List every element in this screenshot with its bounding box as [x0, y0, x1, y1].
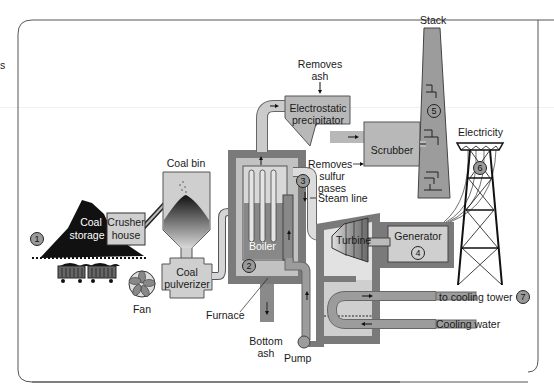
coal-cars [58, 263, 120, 283]
furnace-label: Furnace [206, 309, 245, 321]
step-5-badge: 5 [427, 104, 441, 118]
boiler-label: Boiler [249, 240, 276, 252]
coal-pulverizer-label-line1: Coal [162, 266, 212, 278]
removes-sulfur-label-line3: gases [310, 182, 354, 194]
fan-label: Fan [128, 303, 156, 315]
cooling-tower-label: to cooling tower [439, 291, 513, 303]
precipitator-label-line1: Electrostatic [286, 102, 350, 114]
coal-bin-label: Coal bin [158, 157, 214, 169]
cooling-water-label: Cooling water [436, 318, 500, 330]
removes-sulfur-label-line1: Removes [308, 158, 352, 170]
removes-sulfur-label-line2: sulfur [312, 170, 352, 182]
coal-storage-label-line1: Coal [74, 216, 108, 228]
power-plant-diagram: s [0, 0, 554, 387]
bottom-ash-label-line2: ash [246, 347, 286, 359]
coal-bin [163, 172, 210, 262]
crusher-house-label-line1: Crusher [107, 216, 145, 228]
removes-ash-label-line2: ash [296, 70, 344, 82]
stack-label: Stack [420, 14, 446, 26]
step-1-badge: 1 [30, 232, 44, 246]
step-6-badge: 6 [473, 161, 487, 175]
coal-pulverizer-label-line2: pulverizer [160, 278, 214, 290]
pump [298, 336, 310, 348]
generator-label: Generator [388, 230, 448, 242]
step-7-badge: 7 [516, 290, 530, 304]
fan [129, 271, 155, 298]
crusher-house-label-line2: house [107, 229, 145, 241]
electricity-label: Electricity [458, 126, 503, 138]
turbine-label: Turbine [336, 234, 371, 246]
pump-label: Pump [284, 352, 311, 364]
step-2-badge: 2 [242, 259, 256, 273]
precipitator-label-line2: precipitator [286, 114, 350, 126]
step-3-badge: 3 [296, 174, 310, 188]
coal-storage-label-line2: storage [64, 229, 110, 241]
step-4-badge: 4 [411, 246, 425, 260]
scrubber-label: Scrubber [364, 144, 420, 156]
bottom-ash-label-line1: Bottom [246, 335, 286, 347]
removes-ash-label-line1: Removes [296, 58, 344, 70]
